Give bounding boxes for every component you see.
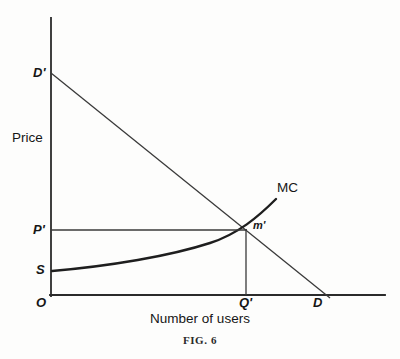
point-label-origin: O <box>36 296 46 309</box>
point-label-m-prime: m' <box>253 220 265 231</box>
point-label-d: D <box>313 296 322 309</box>
point-label-s: S <box>36 263 45 276</box>
point-label-p-prime: P' <box>33 223 45 236</box>
economics-figure: Price D' P' S O Q' D MC m' Number of use… <box>0 0 400 359</box>
point-label-d-prime: D' <box>33 66 45 79</box>
point-label-q-prime: Q' <box>239 296 252 309</box>
users-axis-label: Number of users <box>0 312 400 326</box>
price-axis-label: Price <box>12 131 43 145</box>
chart-canvas <box>0 0 400 359</box>
figure-caption: FIG. 6 <box>0 334 400 346</box>
marginal-cost-curve-label: MC <box>277 181 298 195</box>
marginal-cost-curve <box>52 199 276 271</box>
